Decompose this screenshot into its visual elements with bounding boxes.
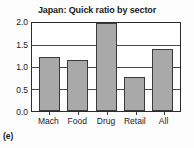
x-tick [107, 112, 108, 115]
x-tick [78, 112, 79, 115]
y-tick-label: 0.5 [4, 86, 28, 95]
bar-slot-mach [35, 23, 63, 111]
y-tick-label: 0.0 [4, 108, 28, 117]
x-tick-label-drug: Drug [92, 116, 121, 126]
y-axis-tick-labels: 2.0 1.5 1.0 0.5 0.0 [3, 22, 28, 112]
bar-slot-retail [120, 23, 148, 111]
bar-retail[interactable] [124, 77, 145, 111]
panel-caption: (e) [3, 131, 13, 141]
x-tick-label-retail: Retail [120, 116, 149, 126]
y-tick-label: 1.0 [4, 63, 28, 72]
bars-layer [32, 23, 180, 111]
bar-mach[interactable] [39, 57, 60, 111]
y-tick-label: 1.5 [4, 41, 28, 50]
bar-slot-all [149, 23, 177, 111]
x-tick-label-all: All [149, 116, 178, 126]
x-tick [49, 112, 50, 115]
x-tick-label-mach: Mach [34, 116, 63, 126]
bar-slot-drug [92, 23, 120, 111]
bar-slot-food [63, 23, 91, 111]
bar-all[interactable] [152, 49, 173, 111]
x-tick [136, 112, 137, 115]
x-tick-label-food: Food [63, 116, 92, 126]
figure-panel: Japan: Quick ratio by sector 2.0 1.5 1.0… [0, 0, 194, 148]
bar-food[interactable] [67, 60, 88, 111]
bar-drug[interactable] [96, 23, 117, 111]
chart-title: Japan: Quick ratio by sector [0, 5, 194, 15]
plot-area [31, 22, 181, 112]
x-tick [164, 112, 165, 115]
x-axis-tick-labels: Mach Food Drug Retail All [31, 116, 181, 126]
y-tick-label: 2.0 [4, 18, 28, 27]
